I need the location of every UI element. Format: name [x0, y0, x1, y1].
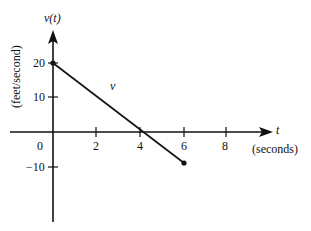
x-tick-0: 0 — [37, 140, 43, 152]
curve-label: v — [110, 80, 115, 92]
start-point — [50, 60, 55, 65]
y-axis-label: v(t) — [44, 12, 61, 24]
x-tick-6: 6 — [181, 140, 187, 152]
y-tick-10: 10 — [33, 91, 45, 103]
x-unit-label: (seconds) — [252, 143, 298, 155]
x-axis-label: t — [276, 124, 279, 136]
x-tick-4: 4 — [137, 140, 143, 152]
series-v-line — [53, 63, 184, 163]
y-tick-minus-10: −10 — [26, 161, 45, 173]
y-tick-20: 20 — [33, 57, 45, 69]
x-tick-8: 8 — [222, 140, 228, 152]
x-tick-2: 2 — [93, 140, 99, 152]
y-unit-label: (feet/second) — [10, 45, 22, 108]
end-point — [181, 160, 186, 165]
chart-plot — [0, 0, 311, 231]
